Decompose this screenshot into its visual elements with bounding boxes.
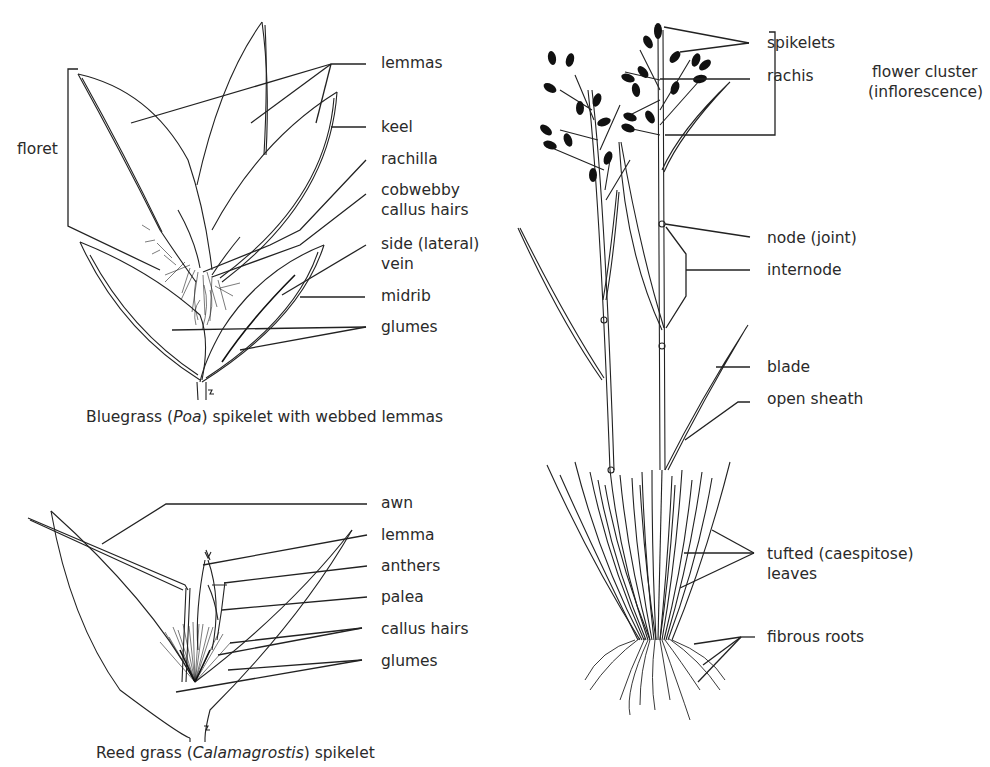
label-flower-cluster-line1: flower cluster (872, 63, 977, 82)
label-side-vein-line1: side (lateral) (381, 235, 479, 254)
caption-bluegrass: Bluegrass (Poa) spikelet with webbed lem… (86, 408, 443, 426)
label-open-sheath: open sheath (767, 390, 863, 409)
caption-reedgrass-genus: Calamagrostis (193, 744, 304, 762)
label-glumes: glumes (381, 318, 438, 337)
label-callus-hairs: callus hairs (381, 620, 469, 639)
label-fibrous-roots: fibrous roots (767, 628, 864, 647)
label-cobwebby-line2: callus hairs (381, 201, 469, 220)
grass-anatomy-illustration (0, 0, 990, 767)
reedgrass-leader-lines (102, 504, 367, 692)
label-glumes-reed: glumes (381, 652, 438, 671)
bluegrass-spikelet-drawing (78, 22, 337, 400)
label-spikelets: spikelets (767, 34, 835, 53)
label-lemma: lemma (381, 526, 435, 545)
caption-bluegrass-post: ) spikelet with webbed lemmas (201, 408, 443, 426)
grass-plant-drawing (518, 23, 748, 720)
caption-reedgrass-pre: Reed grass ( (96, 744, 193, 762)
label-anthers: anthers (381, 557, 440, 576)
caption-reedgrass: Reed grass (Calamagrostis) spikelet (96, 744, 375, 762)
caption-bluegrass-genus: Poa (173, 408, 201, 426)
label-midrib: midrib (381, 287, 431, 306)
plant-leader-lines (660, 27, 775, 682)
reedgrass-spikelet-drawing (28, 511, 352, 742)
label-cobwebby-line1: cobwebby (381, 181, 460, 200)
label-floret: floret (17, 140, 58, 159)
label-keel: keel (381, 118, 413, 137)
caption-bluegrass-pre: Bluegrass ( (86, 408, 173, 426)
caption-reedgrass-post: ) spikelet (304, 744, 375, 762)
label-rachis: rachis (767, 67, 814, 86)
label-node: node (joint) (767, 229, 857, 248)
spikelet-cluster (538, 23, 713, 182)
label-rachilla: rachilla (381, 150, 438, 169)
label-lemmas: lemmas (381, 54, 443, 73)
bluegrass-leader-lines (68, 64, 366, 350)
label-side-vein-line2: vein (381, 255, 414, 274)
label-awn: awn (381, 494, 413, 513)
label-palea: palea (381, 588, 424, 607)
label-tufted-line2: leaves (767, 565, 817, 584)
label-internode: internode (767, 261, 842, 280)
label-tufted-line1: tufted (caespitose) (767, 545, 914, 564)
label-flower-cluster-line2: (inflorescence) (868, 83, 983, 102)
label-blade: blade (767, 358, 810, 377)
